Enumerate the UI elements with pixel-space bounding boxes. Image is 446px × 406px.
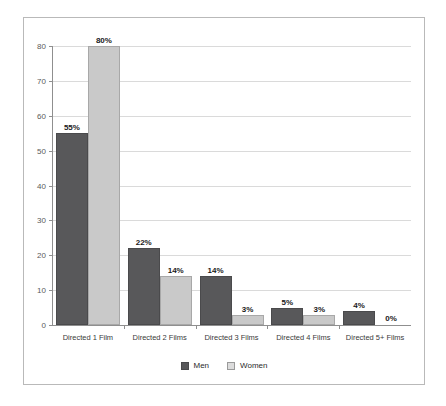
bar-value-label: 4% <box>353 301 365 310</box>
y-tick-label-80: 80 <box>37 42 46 51</box>
plot-area: 01020304050607080 55%80%22%14%14%3%5%3%4… <box>52 46 411 325</box>
y-tick-label-60: 60 <box>37 111 46 120</box>
bar-women-1[interactable]: 80% <box>88 46 120 325</box>
bar-women-3[interactable]: 3% <box>232 315 264 325</box>
bar-men-5[interactable]: 4% <box>343 311 375 325</box>
bar-men-3[interactable]: 14% <box>200 276 232 325</box>
legend-label: Women <box>240 361 267 370</box>
category-label-4: Directed 4 Films <box>276 333 330 342</box>
bar-value-label: 55% <box>64 123 80 132</box>
bar-value-label: 22% <box>136 238 152 247</box>
y-tick-mark-0 <box>49 325 52 326</box>
bar-value-label: 5% <box>282 298 294 307</box>
category-tick <box>124 325 125 329</box>
bar-value-label: 0% <box>385 314 397 323</box>
category-label-3: Directed 3 Films <box>204 333 258 342</box>
category-label-2: Directed 2 Films <box>133 333 187 342</box>
y-tick-label-70: 70 <box>37 76 46 85</box>
bar-men-2[interactable]: 22% <box>128 248 160 325</box>
y-tick-label-10: 10 <box>37 286 46 295</box>
bar-men-1[interactable]: 55% <box>56 133 88 325</box>
bars-layer: 55%80%22%14%14%3%5%3%4%0% <box>52 46 411 325</box>
legend-label: Men <box>194 361 210 370</box>
bar-value-label: 14% <box>168 266 184 275</box>
legend-swatch-men-icon <box>181 362 189 370</box>
chart-legend: MenWomen <box>24 361 424 370</box>
legend-item-women[interactable]: Women <box>227 361 267 370</box>
bar-value-label: 3% <box>242 305 254 314</box>
y-tick-label-0: 0 <box>42 321 46 330</box>
y-tick-label-20: 20 <box>37 251 46 260</box>
chart-frame: 01020304050607080 55%80%22%14%14%3%5%3%4… <box>23 17 425 385</box>
category-label-1: Directed 1 Film <box>63 333 113 342</box>
legend-swatch-women-icon <box>227 362 235 370</box>
bar-women-2[interactable]: 14% <box>160 276 192 325</box>
legend-item-men[interactable]: Men <box>181 361 210 370</box>
bar-men-4[interactable]: 5% <box>271 308 303 325</box>
y-tick-label-30: 30 <box>37 216 46 225</box>
y-tick-label-50: 50 <box>37 146 46 155</box>
x-axis-category-labels: Directed 1 FilmDirected 2 FilmsDirected … <box>52 333 411 353</box>
category-tick <box>339 325 340 329</box>
bar-women-4[interactable]: 3% <box>303 315 335 325</box>
category-tick <box>196 325 197 329</box>
category-label-5: Directed 5+ Films <box>346 333 405 342</box>
bar-value-label: 14% <box>207 266 223 275</box>
bar-value-label: 80% <box>96 36 112 45</box>
gridline-0 <box>52 325 411 326</box>
bar-value-label: 3% <box>314 305 326 314</box>
category-tick <box>267 325 268 329</box>
y-tick-label-40: 40 <box>37 181 46 190</box>
